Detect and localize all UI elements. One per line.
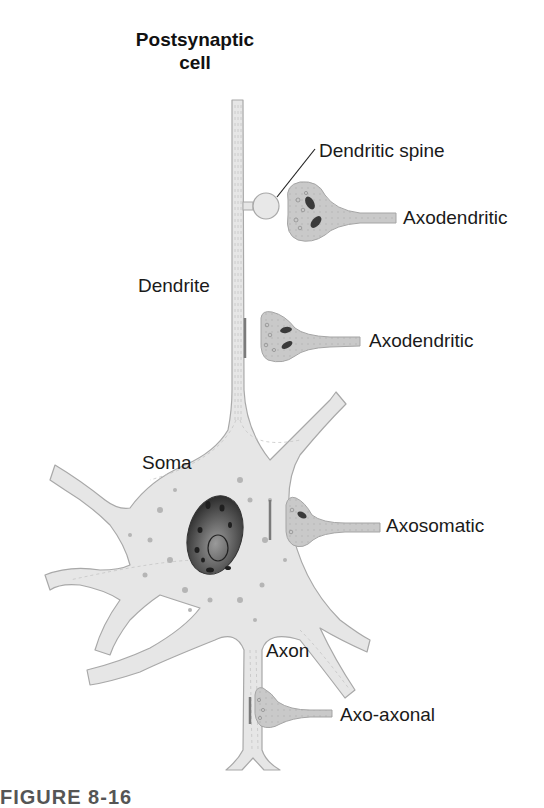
title-line-1: Postsynaptic xyxy=(100,28,290,51)
label-dendritic-spine: Dendritic spine xyxy=(319,141,445,160)
label-axodendritic-2: Axodendritic xyxy=(369,331,474,350)
figure-caption-cropped: FIGURE 8-16 xyxy=(0,786,132,808)
terminal-axodendritic-2 xyxy=(261,312,360,362)
label-dendrite: Dendrite xyxy=(138,276,210,295)
label-axosomatic: Axosomatic xyxy=(386,516,484,535)
dendritic-spine xyxy=(243,193,279,219)
label-soma: Soma xyxy=(142,453,192,472)
title-line-2: cell xyxy=(100,51,290,74)
terminal-axo-axonal xyxy=(255,688,332,728)
label-axo-axonal: Axo-axonal xyxy=(340,705,435,724)
diagram-title: Postsynaptic cell xyxy=(100,28,290,74)
label-axodendritic-1: Axodendritic xyxy=(403,208,508,227)
label-axon: Axon xyxy=(266,641,309,660)
terminal-axosomatic xyxy=(286,497,380,546)
